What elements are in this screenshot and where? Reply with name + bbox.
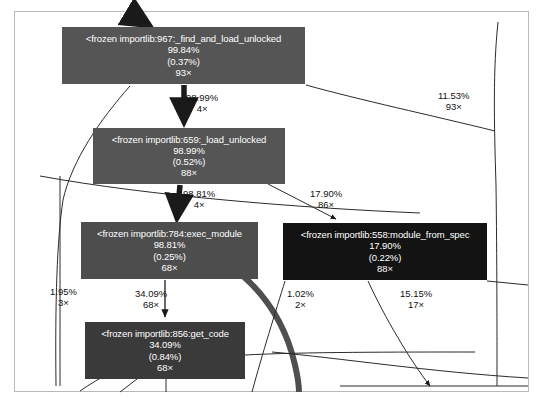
edge-label-percent: 98.99% <box>186 92 218 103</box>
edge-label-percent: 11.53% <box>438 90 470 101</box>
node-label-self: (0.25%) <box>153 251 186 262</box>
edge-label-count: 68× <box>135 299 167 310</box>
edge-modulefromspec-right-exit <box>487 281 528 285</box>
edge-label-percent: 1.02% <box>287 288 314 299</box>
node-label-self: (0.84%) <box>149 351 182 362</box>
node-label-total: 98.99% <box>173 145 205 156</box>
node-get-code[interactable]: <frozen importlib:856:get_code 34.09% (0… <box>85 322 245 379</box>
node-label-name: <frozen importlib:856:get_code <box>101 328 229 339</box>
edge-right-vertical-curve <box>494 22 498 386</box>
edge-label-count: 4× <box>183 199 215 210</box>
node-module-from-spec[interactable]: <frozen importlib:558:module_from_spec 1… <box>283 223 487 280</box>
edge-label-percent: 17.90% <box>310 188 342 199</box>
edge-label-find-to-load: 98.99% 4× <box>186 92 218 115</box>
node-label-name: <frozen importlib:784:exec_module <box>97 228 242 239</box>
edge-label-load-to-modulefromspec: 17.90% 86× <box>310 188 342 211</box>
edge-modulefromspec-to-belowleft <box>252 281 285 392</box>
node-label-calls: 68× <box>157 362 173 373</box>
node-exec-module[interactable]: <frozen importlib:784:exec_module 98.81%… <box>81 222 258 279</box>
node-label-calls: 88× <box>377 263 393 274</box>
edge-label-count: 17× <box>400 299 432 310</box>
edge-getcode-bottom-diagonal <box>120 379 137 392</box>
call-graph-canvas: <frozen importlib:967:_find_and_load_unl… <box>0 0 543 403</box>
edge-label-percent: 15.15% <box>400 288 432 299</box>
edge-incoming-root <box>128 17 149 25</box>
node-load-unlocked[interactable]: <frozen importlib:659:_load_unlocked 98.… <box>93 128 285 184</box>
edge-label-count: 3× <box>50 297 77 308</box>
edge-label-percent: 1.95% <box>50 286 77 297</box>
edge-label-modulefromspec-to-belowleft: 1.02% 2× <box>287 288 314 311</box>
node-label-name: <frozen importlib:659:_load_unlocked <box>112 134 267 145</box>
node-find-and-load-unlocked[interactable]: <frozen importlib:967:_find_and_load_unl… <box>62 27 305 84</box>
node-label-total: 17.90% <box>369 240 401 251</box>
node-label-total: 98.81% <box>154 239 186 250</box>
node-label-total: 99.84% <box>168 44 200 55</box>
edge-load-to-exec <box>177 185 180 218</box>
node-label-calls: 88× <box>181 167 197 178</box>
edge-label-percent: 98.81% <box>183 188 215 199</box>
edge-label-load-to-exec: 98.81% 4× <box>183 188 215 211</box>
node-label-total: 34.09% <box>149 339 181 350</box>
edge-label-find-to-right-exit: 11.53% 93× <box>438 90 470 113</box>
edge-label-count: 2× <box>287 299 314 310</box>
edge-label-exec-to-left-exit: 1.95% 3× <box>50 286 77 309</box>
edge-label-exec-to-getcode: 34.09% 68× <box>135 288 167 311</box>
node-label-self: (0.52%) <box>173 156 206 167</box>
edge-label-count: 4× <box>186 103 218 114</box>
edge-bottom-right-curve <box>272 352 528 378</box>
edge-label-count: 93× <box>438 101 470 112</box>
node-label-self: (0.37%) <box>167 56 200 67</box>
edge-label-modulefromspec-to-belowright: 15.15% 17× <box>400 288 432 311</box>
node-label-calls: 93× <box>176 67 192 78</box>
node-label-calls: 68× <box>162 262 178 273</box>
node-label-name: <frozen importlib:558:module_from_spec <box>301 229 470 240</box>
node-label-name: <frozen importlib:967:_find_and_load_unl… <box>86 33 281 44</box>
node-label-self: (0.22%) <box>369 252 402 263</box>
edge-label-count: 86× <box>310 199 342 210</box>
edge-label-percent: 34.09% <box>135 288 167 299</box>
